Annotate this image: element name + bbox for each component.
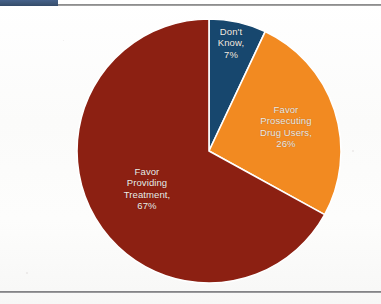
bottom-divider-rule bbox=[0, 291, 381, 293]
pie-chart: Don't Know, 7% Favor Prosecuting Drug Us… bbox=[0, 8, 381, 290]
chart-page: Don't Know, 7% Favor Prosecuting Drug Us… bbox=[0, 0, 381, 304]
top-accent-bar bbox=[0, 0, 58, 6]
pie-chart-svg bbox=[0, 8, 381, 290]
pie-slice-group bbox=[77, 19, 341, 283]
